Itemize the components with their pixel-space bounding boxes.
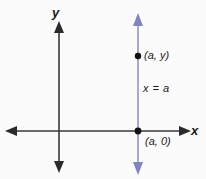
x-axis-right-arrow-icon [179, 126, 191, 136]
vertical-line-up-arrow-icon [133, 13, 143, 26]
vertical-line-down-arrow-icon [133, 162, 143, 175]
line-equation-label: x = a [143, 83, 170, 94]
x-axis-label: x [191, 124, 198, 137]
x-axis-left-arrow-icon [5, 126, 17, 136]
point-a-0-marker [135, 128, 142, 135]
diagram-canvas [0, 0, 206, 179]
coordinate-plane-figure: y x (a, y) x = a (a, 0) [0, 0, 206, 179]
y-axis-up-arrow-icon [54, 21, 64, 33]
point-a-y-label: (a, y) [144, 50, 169, 61]
y-axis-label: y [52, 6, 59, 19]
y-axis-down-arrow-icon [54, 161, 64, 173]
point-a-0-label: (a, 0) [145, 136, 171, 147]
point-a-y-marker [135, 53, 141, 59]
